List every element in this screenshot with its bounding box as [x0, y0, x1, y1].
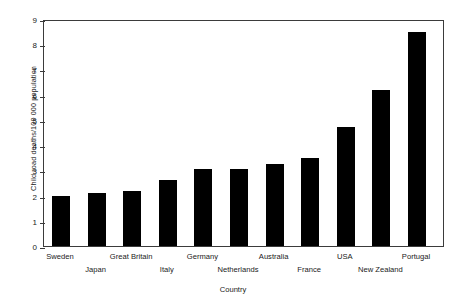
x-axis-category-label: Japan — [85, 265, 106, 274]
y-axis-tick — [40, 46, 45, 47]
x-axis-category-label: USA — [337, 252, 353, 261]
y-axis-tick-label: 3 — [24, 168, 37, 176]
y-axis-tick-label: 2 — [24, 194, 37, 202]
y-axis-tick-label: 0 — [24, 244, 37, 252]
y-axis-tick-label: 5 — [24, 118, 37, 126]
x-axis-category-label: France — [297, 265, 321, 274]
bar — [337, 127, 355, 246]
y-axis-tick-label: 9 — [24, 17, 37, 25]
x-axis-category-label: New Zealand — [358, 265, 403, 274]
y-axis-tick-label: 1 — [24, 219, 37, 227]
y-axis-tick — [40, 71, 45, 72]
y-axis-tick-label: 6 — [24, 93, 37, 101]
x-axis-category-label: Great Britain — [110, 252, 153, 261]
x-axis-category-label: Sweden — [46, 252, 73, 261]
y-axis-tick-label: 4 — [24, 143, 37, 151]
bar — [372, 90, 390, 246]
bar — [408, 32, 426, 246]
bar-chart-figure: Child road deaths/100 000 population 012… — [0, 0, 466, 305]
y-axis-tick — [40, 223, 45, 224]
bar — [230, 169, 248, 246]
x-axis-title: Country — [0, 285, 466, 294]
bar — [52, 196, 70, 246]
bar — [194, 169, 212, 246]
bar — [123, 191, 141, 246]
x-axis-category-label: Portugal — [402, 252, 430, 261]
bar — [88, 193, 106, 246]
y-axis-tick — [40, 248, 45, 249]
y-axis-tick — [40, 97, 45, 98]
bar — [159, 180, 177, 246]
x-axis-category-label: Netherlands — [218, 265, 259, 274]
y-axis-tick — [40, 147, 45, 148]
x-axis-category-label: Germany — [187, 252, 218, 261]
plot-area: 0123456789 — [43, 20, 444, 247]
y-axis-tick — [40, 172, 45, 173]
bar — [301, 158, 319, 246]
y-axis-tick — [40, 21, 45, 22]
bar — [266, 164, 284, 246]
y-axis-tick — [40, 122, 45, 123]
x-axis-category-label: Australia — [259, 252, 289, 261]
y-axis-tick — [40, 198, 45, 199]
y-axis-tick-label: 7 — [24, 67, 37, 75]
y-axis-tick-label: 8 — [24, 42, 37, 50]
x-axis-category-label: Italy — [160, 265, 174, 274]
